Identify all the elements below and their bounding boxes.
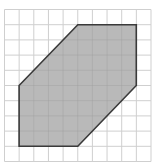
grid-figure — [0, 0, 155, 167]
